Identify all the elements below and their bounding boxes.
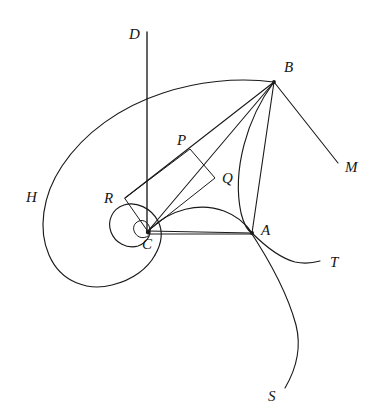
label-P: P — [176, 132, 186, 148]
label-C: C — [142, 236, 153, 252]
label-S: S — [268, 388, 276, 404]
vertex-dot-B — [272, 80, 276, 84]
arc-B-to-A — [238, 82, 274, 233]
parallelogram-R-P-Q-C — [125, 149, 215, 231]
label-T: T — [330, 254, 340, 270]
label-A: A — [260, 222, 271, 238]
segment-AC-through-Q — [148, 231, 252, 233]
spiral-H-outer-whorl — [43, 80, 274, 287]
figure-root: D B M P Q H R A C T S — [0, 0, 371, 414]
vertex-dot-A — [250, 231, 254, 235]
label-D: D — [128, 26, 140, 42]
label-R: R — [103, 190, 113, 206]
label-Q: Q — [222, 170, 233, 186]
geometric-diagram: D B M P Q H R A C T S — [0, 0, 371, 414]
label-M: M — [344, 159, 359, 175]
vertex-dot-C — [146, 230, 150, 234]
ray-BM — [274, 82, 338, 163]
spiral-curve-S — [248, 228, 298, 388]
spiral-H-second-whorl — [110, 204, 161, 255]
label-B: B — [284, 59, 293, 75]
label-H: H — [25, 189, 38, 205]
